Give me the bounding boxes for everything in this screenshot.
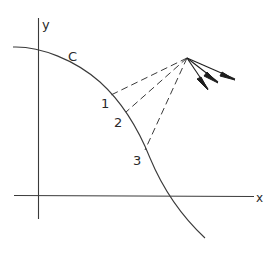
curve-c	[13, 47, 205, 238]
point-label-1: 1	[101, 96, 109, 111]
x-axis	[14, 196, 254, 197]
x-axis-label: x	[256, 191, 263, 205]
arrow-head-3	[197, 77, 208, 90]
point-label-2: 2	[114, 115, 122, 130]
arrow-head-1	[220, 72, 235, 80]
ray-to-point-1	[111, 58, 187, 95]
arrow-bundle	[187, 58, 235, 90]
dashed-rays	[111, 58, 187, 150]
point-label-3: 3	[133, 153, 141, 168]
diagram-canvas: y x C 1 2 3	[0, 0, 277, 259]
ray-to-point-3	[145, 58, 187, 150]
y-axis-label: y	[42, 17, 50, 32]
ray-to-point-2	[126, 58, 187, 112]
arrow-head-2	[204, 72, 218, 83]
curve-label-c: C	[68, 49, 77, 64]
